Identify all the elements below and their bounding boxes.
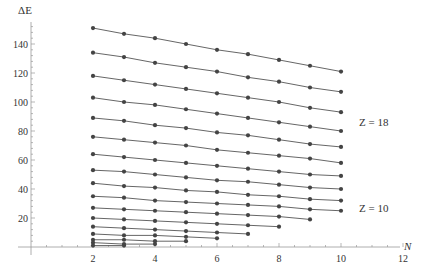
data-point xyxy=(215,164,219,168)
data-point xyxy=(122,207,126,211)
data-point xyxy=(91,96,95,100)
data-point xyxy=(246,193,250,197)
data-point xyxy=(277,100,281,104)
data-point xyxy=(339,145,343,149)
data-point xyxy=(277,225,281,229)
y-axis-label: ΔE xyxy=(18,4,32,16)
x-axis-label: N xyxy=(403,240,412,252)
data-point xyxy=(153,228,157,232)
data-point xyxy=(91,26,95,30)
data-point xyxy=(215,91,219,95)
x-tick-label: 10 xyxy=(336,253,346,264)
data-point xyxy=(122,55,126,59)
data-point xyxy=(246,167,250,171)
data-point xyxy=(215,212,219,216)
data-point xyxy=(153,123,157,127)
data-point xyxy=(246,232,250,236)
data-point xyxy=(215,69,219,73)
data-point xyxy=(153,36,157,40)
data-point xyxy=(153,199,157,203)
data-point xyxy=(215,112,219,116)
data-point xyxy=(184,175,188,179)
data-point xyxy=(339,199,343,203)
x-tick-label: 12 xyxy=(398,253,408,264)
data-point xyxy=(184,143,188,147)
series-line xyxy=(93,227,248,234)
data-point xyxy=(308,197,312,201)
x-tick-label: 8 xyxy=(277,253,282,264)
data-point xyxy=(339,69,343,73)
data-point xyxy=(91,232,95,236)
data-point xyxy=(91,116,95,120)
y-tick-label: 40 xyxy=(18,184,28,195)
data-point xyxy=(184,239,188,243)
data-point xyxy=(308,142,312,146)
series-group xyxy=(91,26,343,248)
data-point xyxy=(122,238,126,242)
data-point xyxy=(215,236,219,240)
data-point xyxy=(91,181,95,185)
data-point xyxy=(339,161,343,165)
data-point xyxy=(122,78,126,82)
y-tick-label: 60 xyxy=(18,155,28,166)
data-point xyxy=(339,110,343,114)
data-point xyxy=(339,209,343,213)
annotation-z10: Z = 10 xyxy=(359,202,389,214)
data-point xyxy=(308,85,312,89)
data-point xyxy=(91,206,95,210)
data-point xyxy=(91,135,95,139)
data-point xyxy=(277,80,281,84)
y-tick-label: 140 xyxy=(13,39,28,50)
data-point xyxy=(122,184,126,188)
data-point xyxy=(277,214,281,218)
data-point xyxy=(153,219,157,223)
y-tick-label: 80 xyxy=(18,126,28,137)
data-point xyxy=(153,61,157,65)
data-point xyxy=(184,200,188,204)
data-point xyxy=(184,107,188,111)
data-point xyxy=(246,213,250,217)
x-tick-label: 4 xyxy=(153,253,158,264)
data-point xyxy=(184,229,188,233)
data-point xyxy=(277,204,281,208)
data-point xyxy=(91,225,95,229)
data-point xyxy=(184,188,188,192)
data-point xyxy=(91,74,95,78)
data-point xyxy=(184,220,188,224)
data-point xyxy=(277,154,281,158)
chart-container: 2468101220406080100120140 ΔE N Z = 18 Z … xyxy=(0,0,439,277)
annotation-z18: Z = 18 xyxy=(359,116,389,128)
data-point xyxy=(122,138,126,142)
axes: 2468101220406080100120140 xyxy=(13,22,408,264)
data-point xyxy=(122,217,126,221)
data-point xyxy=(153,83,157,87)
data-point xyxy=(277,194,281,198)
data-point xyxy=(153,242,157,246)
data-point xyxy=(246,203,250,207)
data-point xyxy=(277,58,281,62)
data-point xyxy=(215,230,219,234)
data-point xyxy=(339,90,343,94)
series-line xyxy=(93,240,186,241)
data-point xyxy=(246,75,250,79)
data-point xyxy=(184,126,188,130)
data-point xyxy=(153,158,157,162)
data-point xyxy=(122,196,126,200)
data-point xyxy=(215,148,219,152)
data-point xyxy=(308,156,312,160)
data-point xyxy=(215,222,219,226)
data-point xyxy=(215,48,219,52)
data-point xyxy=(184,42,188,46)
data-point xyxy=(339,129,343,133)
data-point xyxy=(91,51,95,55)
data-point xyxy=(122,233,126,237)
data-point xyxy=(215,190,219,194)
x-tick-label: 2 xyxy=(91,253,96,264)
data-point xyxy=(122,243,126,247)
y-tick-label: 120 xyxy=(13,68,28,79)
y-tick-label: 100 xyxy=(13,97,28,108)
data-point xyxy=(91,243,95,247)
data-point xyxy=(215,178,219,182)
data-point xyxy=(122,119,126,123)
data-point xyxy=(308,185,312,189)
